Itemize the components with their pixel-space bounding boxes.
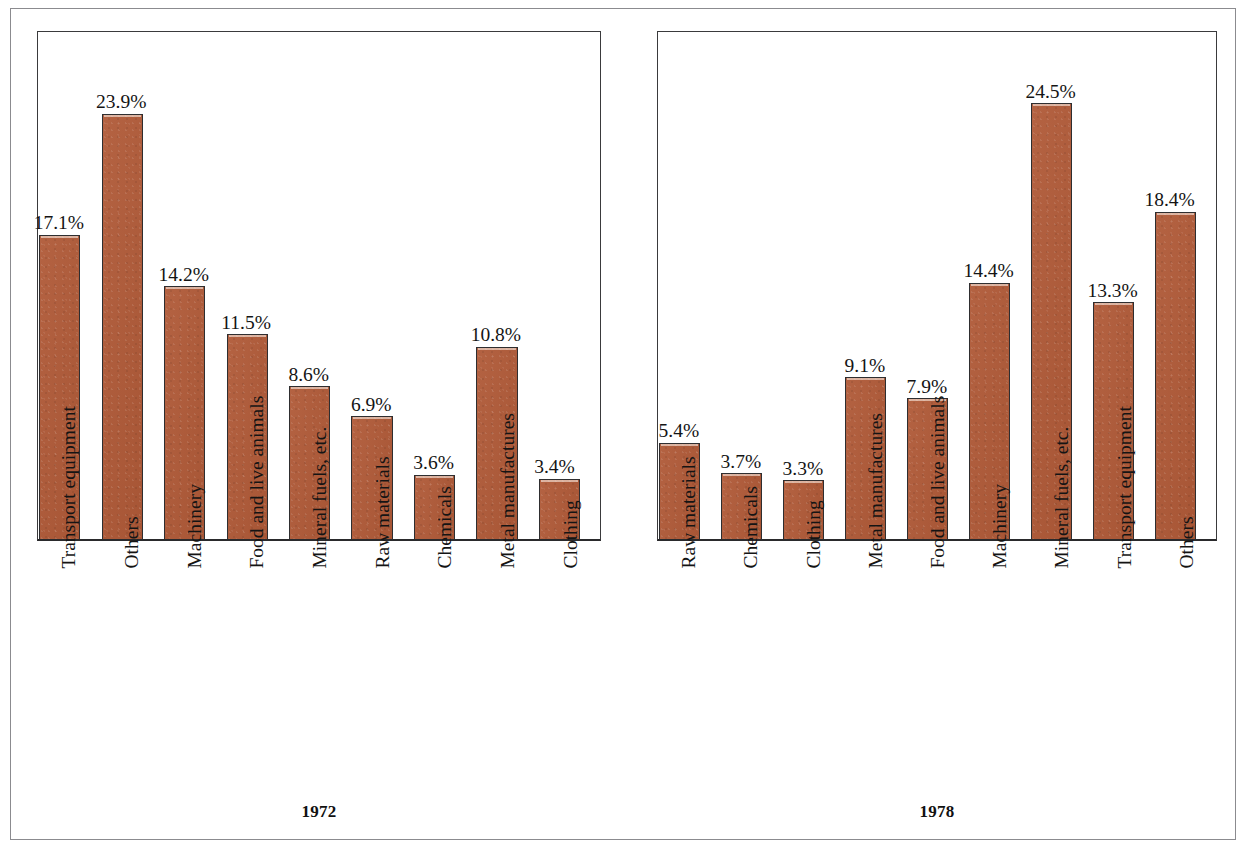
category-label-slot: Machinery (968, 543, 1030, 798)
category-label-slot: Mineral fuels, etc. (288, 543, 351, 798)
category-label-slot: Metal manufactures (476, 543, 539, 798)
category-label: Raw materials (373, 456, 393, 568)
bar-value-label: 11.5% (221, 313, 271, 333)
category-label: Raw materials (679, 456, 699, 568)
category-label: Transport equipment (59, 406, 79, 568)
bar-slot: 18.4% (1154, 32, 1216, 539)
bar-slot: 3.3% (782, 32, 844, 539)
bar-value-label: 17.1% (34, 213, 84, 233)
bar-value-label: 14.4% (963, 261, 1013, 281)
bar-value-label: 5.4% (659, 421, 700, 441)
bar-slot: 3.4% (538, 32, 600, 539)
bar-value-label: 9.1% (845, 356, 886, 376)
category-label-slot: Chemicals (719, 543, 781, 798)
category-label-text: Machinery (990, 484, 1010, 568)
category-label-slot: Food and live animals (906, 543, 968, 798)
category-axis-1978: Raw materialsChemicalsClothingMetal manu… (657, 543, 1217, 798)
category-label: Metal manufactures (866, 413, 886, 568)
chart-panel-1978: 5.4%3.7%3.3%9.1%7.9%14.4%24.5%13.3%18.4%… (645, 9, 1223, 841)
category-label: Food and live animals (247, 396, 267, 569)
category-label-text: Transport equipment (59, 406, 79, 568)
bar-slot: 3.6% (413, 32, 475, 539)
year-caption-1978: 1978 (657, 802, 1217, 822)
category-label-slot: Clothing (538, 543, 601, 798)
category-label: Others (1177, 517, 1197, 569)
category-label: Food and live animals (928, 396, 948, 569)
category-label-text: Metal manufactures (866, 413, 886, 568)
bar-value-label: 6.9% (351, 395, 392, 415)
bar-slot: 3.7% (720, 32, 782, 539)
category-label: Chemicals (741, 486, 761, 568)
year-caption-1972: 1972 (37, 802, 601, 822)
category-label: Others (122, 517, 142, 569)
page-border-frame: 17.1%23.9%14.2%11.5%8.6%6.9%3.6%10.8%3.4… (10, 8, 1236, 840)
category-label-text: Mineral fuels, etc. (1052, 427, 1072, 569)
category-label-slot: Transport equipment (37, 543, 100, 798)
category-label: Mineral fuels, etc. (310, 427, 330, 569)
bar: 18.4% (1155, 212, 1196, 539)
category-label-text: Clothing (804, 500, 824, 568)
category-label-text: Chemicals (741, 486, 761, 568)
category-label: Metal manufactures (498, 413, 518, 568)
category-axis-1972: Transport equipmentOthersMachineryFood a… (37, 543, 601, 798)
category-label-slot: Chemicals (413, 543, 476, 798)
bar-value-label: 14.2% (159, 265, 209, 285)
category-label-slot: Raw materials (657, 543, 719, 798)
category-label: Clothing (804, 500, 824, 568)
category-label-slot: Transport equipment (1093, 543, 1155, 798)
category-label-text: Chemicals (435, 486, 455, 568)
bar-value-label: 3.4% (534, 457, 575, 477)
bar-value-label: 3.6% (413, 453, 454, 473)
category-label: Machinery (990, 484, 1010, 568)
category-label-text: Raw materials (373, 456, 393, 568)
category-label-text: Raw materials (679, 456, 699, 568)
category-label: Mineral fuels, etc. (1052, 427, 1072, 569)
category-label-slot: Others (1155, 543, 1217, 798)
chart-panel-1972: 17.1%23.9%14.2%11.5%8.6%6.9%3.6%10.8%3.4… (25, 9, 607, 841)
category-label-text: Clothing (561, 500, 581, 568)
category-label-slot: Mineral fuels, etc. (1030, 543, 1092, 798)
category-label-text: Food and live animals (247, 396, 267, 569)
category-label-slot: Food and live animals (225, 543, 288, 798)
bar-value-label: 10.8% (471, 325, 521, 345)
category-label-slot: Others (100, 543, 163, 798)
charts-container: 17.1%23.9%14.2%11.5%8.6%6.9%3.6%10.8%3.4… (11, 9, 1237, 841)
category-label-text: Others (1177, 517, 1197, 569)
bar-value-label: 24.5% (1025, 82, 1075, 102)
category-label-text: Mineral fuels, etc. (310, 427, 330, 569)
category-label: Chemicals (435, 486, 455, 568)
bar-slot: 14.2% (163, 32, 225, 539)
category-label: Transport equipment (1115, 406, 1135, 568)
category-label-slot: Machinery (162, 543, 225, 798)
bar-value-label: 18.4% (1144, 190, 1194, 210)
bar-value-label: 23.9% (96, 92, 146, 112)
category-label: Clothing (561, 500, 581, 568)
bar-value-label: 8.6% (288, 365, 329, 385)
bar: 23.9% (102, 114, 143, 539)
bar-value-label: 7.9% (907, 377, 948, 397)
category-label-text: Transport equipment (1115, 406, 1135, 568)
bar-value-label: 3.7% (721, 452, 762, 472)
bar-slot: 14.4% (968, 32, 1030, 539)
category-label-slot: Raw materials (350, 543, 413, 798)
bar-slot: 23.9% (100, 32, 162, 539)
category-label-text: Machinery (185, 484, 205, 568)
category-label-slot: Metal manufactures (844, 543, 906, 798)
category-label-slot: Clothing (781, 543, 843, 798)
category-label-text: Others (122, 517, 142, 569)
bar-value-label: 3.3% (783, 459, 824, 479)
bar-value-label: 13.3% (1087, 281, 1137, 301)
category-label-text: Food and live animals (928, 396, 948, 569)
category-label-text: Metal manufactures (498, 413, 518, 568)
category-label: Machinery (185, 484, 205, 568)
